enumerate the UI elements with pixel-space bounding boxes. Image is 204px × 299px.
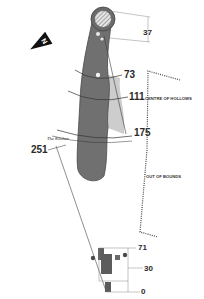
yardage-175: 175 <box>134 127 151 138</box>
bunker <box>96 32 100 36</box>
yardage-tee-0: 0 <box>141 287 146 296</box>
label-out-of-bounds: OUT OF BOUNDS <box>146 174 181 179</box>
yardage-green-depth: 37 <box>143 28 152 37</box>
label-the-kitchen: The Kitchen <box>47 136 70 141</box>
green <box>91 7 115 31</box>
yardage-251: 251 <box>31 144 48 155</box>
yardage-tee-30: 30 <box>144 264 153 273</box>
hole-map: 37 73 111 CENTRE OF HOLLOWS 175 The Kitc… <box>0 0 204 299</box>
bunker <box>96 73 100 77</box>
yardage-73: 73 <box>124 69 136 80</box>
bunker <box>100 37 103 40</box>
yardage-tee-71: 71 <box>138 243 147 252</box>
label-centre-of-hollows: CENTRE OF HOLLOWS <box>145 96 192 101</box>
yardage-111: 111 <box>129 91 145 102</box>
